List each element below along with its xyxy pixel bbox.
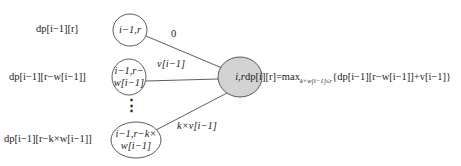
node-n2-text: i−1,r− w[i−1] — [112, 65, 146, 89]
state-label-n2: dp[i−1][r−w[i−1]] — [9, 72, 86, 83]
edge-n2-target — [146, 79, 218, 81]
formula-subscript: k×w[i−1]≤r — [300, 77, 332, 84]
formula-lhs: dp[i][r]=max — [245, 71, 300, 82]
node-n1-line1: i−1,r — [119, 24, 141, 35]
node-n3-text: i−1,r−k× w[i−1] — [111, 128, 161, 152]
vertical-ellipsis: ⋮ — [124, 98, 139, 113]
node-n3-line2: w[i−1] — [111, 140, 161, 152]
node-n2-line1: i−1,r− — [112, 65, 146, 77]
edge-label-n1: 0 — [171, 29, 176, 40]
edge-label-n2: v[i−1] — [157, 59, 185, 70]
state-label-n1: dp[i−1][r] — [36, 24, 78, 35]
node-n3-line1: i−1,r−k× — [111, 128, 161, 140]
node-target-line1: i,r — [235, 71, 245, 82]
node-n2-line2: w[i−1] — [112, 77, 146, 89]
state-label-n3: dp[i−1][r−k×w[i−1]] — [4, 134, 92, 145]
formula-rhs: {dp[i−1][r−w[i−1]]+v[i−1]} — [332, 71, 451, 82]
edge-label-n3: k×v[i−1] — [177, 121, 217, 132]
node-n1-text: i−1,r — [113, 24, 147, 36]
recurrence-formula: dp[i][r]=maxk×w[i−1]≤r{dp[i−1][r−w[i−1]]… — [245, 72, 451, 85]
